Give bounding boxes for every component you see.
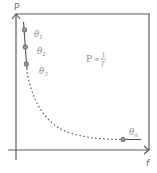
point-theta-3 (24, 62, 28, 66)
label-theta-n: θn (129, 127, 138, 138)
label-theta-1: θ1 (34, 29, 43, 40)
label-theta-3: θ3 (39, 66, 48, 77)
p-vs-f-diagram: P f θ1 θ2 θ3 θn P ∝ 1 f (0, 0, 157, 173)
svg-text:1: 1 (102, 51, 106, 59)
svg-text:∝: ∝ (94, 55, 99, 64)
label-theta-2: θ2 (37, 46, 46, 57)
point-theta-n (121, 137, 125, 141)
curve-dotted (27, 72, 121, 140)
svg-text:f: f (101, 60, 106, 68)
point-theta-2 (23, 45, 27, 49)
x-axis-label: f (146, 158, 151, 168)
y-axis-label: P (14, 2, 20, 12)
relation-formula: P ∝ 1 f (86, 51, 106, 68)
point-theta-1 (22, 28, 26, 32)
svg-text:P: P (86, 54, 92, 64)
